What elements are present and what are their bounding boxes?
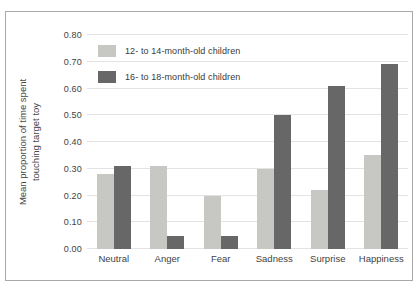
legend-swatch-younger	[98, 45, 116, 57]
bar	[381, 64, 398, 249]
x-tick-label: Neutral	[87, 253, 141, 264]
bar	[257, 169, 274, 249]
x-tick-label: Happiness	[355, 253, 409, 264]
chart-frame: Mean proportion of time spent touching t…	[5, 11, 413, 281]
x-tick-label: Anger	[141, 253, 195, 264]
x-tick-label: Sadness	[248, 253, 302, 264]
bar	[221, 236, 238, 249]
legend-item-older: 16- to 18-month-old children	[98, 71, 240, 83]
y-tick-label: 0.10	[64, 217, 82, 227]
y-tick-label: 0.80	[64, 30, 82, 40]
legend-label-younger: 12- to 14-month-old children	[125, 46, 240, 56]
bar	[167, 236, 184, 249]
legend: 12- to 14-month-old children 16- to 18-m…	[98, 45, 240, 97]
y-axis: 0.000.100.200.300.400.500.600.700.80	[6, 35, 82, 249]
bar	[311, 190, 328, 249]
bar-group	[301, 35, 355, 249]
bar	[97, 174, 114, 249]
x-axis-labels: NeutralAngerFearSadnessSurpriseHappiness	[87, 253, 408, 264]
bar	[150, 166, 167, 249]
bar	[328, 86, 345, 249]
legend-swatch-older	[98, 71, 116, 83]
y-tick-label: 0.70	[64, 57, 82, 67]
bar-group	[248, 35, 302, 249]
bar-group	[355, 35, 409, 249]
bar	[204, 196, 221, 250]
y-tick-label: 0.60	[64, 84, 82, 94]
y-tick-label: 0.50	[64, 110, 82, 120]
screenshot-root: { "figure": { "ylabel_line1": "Mean prop…	[0, 0, 420, 291]
bar	[114, 166, 131, 249]
x-tick-label: Surprise	[301, 253, 355, 264]
y-tick-label: 0.40	[64, 137, 82, 147]
bar	[364, 155, 381, 249]
y-tick-label: 0.30	[64, 164, 82, 174]
y-tick-label: 0.00	[64, 244, 82, 254]
legend-label-older: 16- to 18-month-old children	[125, 72, 240, 82]
x-tick-label: Fear	[194, 253, 248, 264]
bar	[274, 115, 291, 249]
y-tick-label: 0.20	[64, 191, 82, 201]
legend-item-younger: 12- to 14-month-old children	[98, 45, 240, 57]
